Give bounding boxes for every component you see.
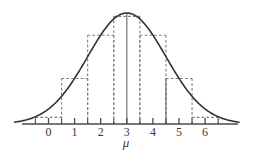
x-axis-tick-label: 1 (67, 126, 83, 139)
x-axis-group (22, 118, 238, 124)
x-axis-tick-label: 5 (171, 126, 187, 139)
x-axis-tick-label: 2 (93, 126, 109, 139)
x-axis-tick-label: 6 (197, 126, 213, 139)
normal-distribution-figure: 0123456 μ (0, 0, 257, 157)
histogram-bar (62, 78, 88, 124)
x-axis-tick-label: 0 (41, 126, 57, 139)
histogram-bar (166, 78, 192, 124)
x-axis-title: μ (116, 136, 136, 150)
vertical-reference-lines-group (127, 13, 166, 124)
x-axis-tick-label: 4 (145, 126, 161, 139)
